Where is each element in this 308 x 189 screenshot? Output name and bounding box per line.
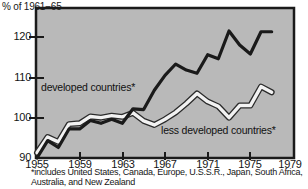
series-label-less-developed: less developed countries* (161, 124, 276, 136)
y-tick-120: 120 (14, 31, 31, 42)
chart-figure: % of 1961−65 120 110 100 90 1955 1959 19… (0, 0, 308, 189)
y-tick-100: 100 (14, 112, 31, 123)
y-tick-110: 110 (14, 72, 31, 83)
chart-footnote: *includes United States, Canada, Europe,… (31, 167, 307, 187)
series-label-developed: developed countries* (41, 81, 135, 93)
